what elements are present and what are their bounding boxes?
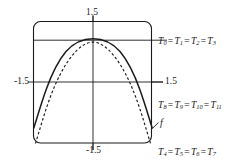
plot-canvas [0, 0, 243, 166]
annotation-t8-t11: T8=T9=T10=T11 [158, 101, 222, 111]
t3-subscript: 3 [213, 39, 216, 46]
t8-equals-2: = [183, 100, 191, 110]
t8-equals-3: = [203, 100, 211, 110]
t8-subscript: 8 [163, 103, 166, 110]
tick-label-top: 1.5 [86, 8, 98, 18]
annotation-f: f [160, 118, 163, 128]
tick-label-left: -1.5 [14, 77, 29, 87]
f-leader-line [152, 123, 158, 129]
annotation-t0-t3: T0=T1=T2=T3 [158, 37, 216, 47]
t9-subscript: 9 [180, 103, 183, 110]
t7-symbol: T [207, 147, 212, 157]
t2-subscript: 2 [196, 39, 199, 46]
t4-equals-2: = [183, 147, 191, 157]
t4-subscript: 4 [163, 150, 166, 157]
t3-symbol: T [207, 36, 212, 46]
t5-subscript: 5 [180, 150, 183, 157]
taylor-polynomial-figure: 1.5 -1.5 1.5 -1.5 T0=T1=T2=T3 T8=T9=T10=… [0, 0, 243, 166]
annotation-t4-t7: T4=T5=T6=T7 [158, 148, 216, 158]
t7-subscript: 7 [213, 150, 216, 157]
t11-subscript: 11 [216, 103, 222, 110]
t10-subscript: 10 [196, 103, 202, 110]
tick-label-right: 1.5 [165, 77, 177, 87]
t0-subscript: 0 [163, 39, 166, 46]
t1-subscript: 1 [180, 39, 183, 46]
tick-label-bottom: -1.5 [86, 146, 101, 156]
t6-subscript: 6 [196, 150, 199, 157]
t0-equals-2: = [183, 36, 191, 46]
